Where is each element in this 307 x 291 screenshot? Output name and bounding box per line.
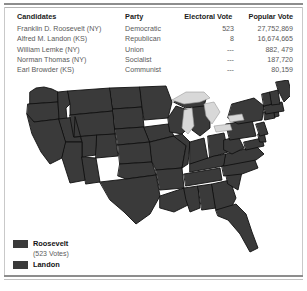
- cell-electoral-vote: 8: [183, 34, 234, 44]
- cell-electoral-vote: 523: [183, 24, 234, 34]
- map-legend: Roosevelt (523 Votes) Landon: [13, 238, 133, 270]
- state-kansas: [118, 142, 152, 164]
- legend-swatch-landon: [13, 261, 28, 269]
- cell-electoral-vote: ---: [183, 55, 234, 65]
- us-electoral-map: [14, 80, 290, 255]
- cell-popular-vote: 27,752,869: [234, 24, 293, 34]
- cell-popular-vote: 80,159: [234, 65, 293, 75]
- table-row: Franklin D. Roosevelt (NY) Democratic 52…: [17, 24, 293, 34]
- state-florida: [216, 204, 258, 252]
- table-header-row: Candidates Party Electoral Vote Popular …: [17, 12, 293, 24]
- state-north-dakota: [110, 87, 142, 109]
- map-states-group: [27, 80, 290, 252]
- state-texas: [100, 175, 160, 224]
- header-candidates: Candidates: [17, 12, 125, 24]
- frame-right-border: [302, 7, 303, 275]
- state-mississippi: [184, 186, 200, 212]
- cell-electoral-vote: ---: [183, 45, 234, 55]
- state-washington: [30, 87, 58, 104]
- cell-party: Union: [125, 45, 183, 55]
- state-south-dakota: [113, 107, 144, 129]
- state-colorado: [96, 134, 118, 158]
- table-row: Norman Thomas (NY) Socialist --- 187,720: [17, 55, 293, 65]
- table-row: William Lemke (NY) Union --- 882, 479: [17, 45, 293, 55]
- election-results-figure: Candidates Party Electoral Vote Popular …: [0, 0, 307, 291]
- table-row: Earl Browder (KS) Communist --- 80,159: [17, 65, 293, 75]
- election-results-table: Candidates Party Electoral Vote Popular …: [17, 12, 293, 75]
- cell-party: Socialist: [125, 55, 183, 65]
- cell-candidate: Norman Thomas (NY): [17, 55, 125, 65]
- cell-candidate: Alfred M. Landon (KS): [17, 34, 125, 44]
- state-idaho: [58, 91, 70, 120]
- top-rule-inner: [4, 7, 303, 8]
- top-rule-outer: [4, 3, 303, 5]
- legend-label-roosevelt: Roosevelt: [33, 239, 68, 248]
- legend-item-landon: Landon: [13, 259, 133, 270]
- header-electoral-vote: Electoral Vote: [183, 12, 234, 24]
- header-popular-vote: Popular Vote: [234, 12, 293, 24]
- table-row: Alfred M. Landon (KS) Republican 8 16,67…: [17, 34, 293, 44]
- cell-party: Republican: [125, 34, 183, 44]
- state-new-hampshire: [270, 90, 280, 105]
- cell-candidate: Franklin D. Roosevelt (NY): [17, 24, 125, 34]
- state-arkansas: [156, 168, 184, 190]
- cell-popular-vote: 882, 479: [234, 45, 293, 55]
- frame-left-border: [4, 7, 5, 275]
- legend-label-landon: Landon: [33, 260, 60, 269]
- cell-candidate: William Lemke (NY): [17, 45, 125, 55]
- cell-popular-vote: 16,674,665: [234, 34, 293, 44]
- legend-sublabel-roosevelt: (523 Votes): [33, 249, 133, 259]
- bottom-rule: [4, 275, 303, 277]
- legend-item-roosevelt: Roosevelt: [13, 238, 133, 249]
- header-party: Party: [125, 12, 183, 24]
- cell-party: Communist: [125, 65, 183, 75]
- state-montana: [68, 88, 113, 115]
- state-minnesota: [140, 86, 172, 120]
- cell-candidate: Earl Browder (KS): [17, 65, 125, 75]
- bottom-rule-thin: [4, 279, 303, 280]
- cell-electoral-vote: ---: [183, 65, 234, 75]
- us-map-svg: [14, 80, 290, 255]
- cell-popular-vote: 187,720: [234, 55, 293, 65]
- cell-party: Democratic: [125, 24, 183, 34]
- legend-swatch-roosevelt: [13, 240, 28, 248]
